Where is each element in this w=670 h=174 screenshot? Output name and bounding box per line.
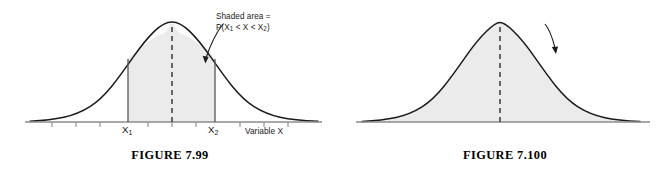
shaded-area-annotation-line2: P(X1 < X < X2) [216, 23, 271, 34]
x2-axis-label: X2 [208, 124, 218, 135]
annotation-arrow-right [545, 24, 555, 48]
x1-axis-label: X1 [122, 124, 132, 135]
prob-suffix: ) [267, 23, 270, 32]
x-axis-title-left: Variable X [245, 126, 283, 136]
figure-7-99-panel: Shaded area = P(X1 < X < X2) X1 X2 Varia… [0, 0, 340, 174]
total-shaded-area-region [362, 22, 640, 122]
figure-caption-right: FIGURE 7.100 [340, 148, 670, 163]
prob-middle: < X < X [233, 23, 263, 32]
shaded-area-annotation-line1: Shaded area = [216, 12, 271, 23]
prob-prefix: P(X [216, 23, 230, 32]
normal-curve-plot-left [0, 0, 340, 145]
normal-curve-plot-right [340, 0, 670, 145]
annotation-arrowhead-icon-right [552, 46, 558, 54]
figure-7-100-panel: Shaded region represents the total area … [340, 0, 670, 174]
figure-caption-left: FIGURE 7.99 [0, 148, 340, 163]
x2-sub: 2 [214, 129, 218, 136]
figure-sheet: Shaded area = P(X1 < X < X2) X1 X2 Varia… [0, 0, 670, 174]
shaded-area-annotation: Shaded area = P(X1 < X < X2) [216, 12, 271, 33]
x1-sub: 1 [128, 129, 132, 136]
